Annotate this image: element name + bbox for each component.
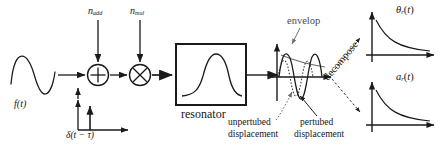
input-sine-waveform (11, 56, 55, 94)
impulse-label: δ(t − τ) (66, 131, 94, 141)
output-plot-amplitude (366, 82, 434, 132)
unperturbed-displacement-label-line1: unpertubed (228, 118, 271, 128)
amplitude-output-label: ar(t) (396, 72, 414, 83)
impulse-subplot (78, 100, 128, 130)
diagram-vector-layer (0, 0, 441, 147)
output-plot-phase (366, 12, 434, 62)
unperturbed-displacement-label-line2: displacement (228, 130, 278, 140)
perturbed-pointer (300, 96, 317, 116)
phase-output-label: θr(t) (396, 5, 414, 16)
product-operator-node (130, 65, 151, 86)
decompose-arrow-lower (332, 79, 360, 112)
sum-operator-node (88, 65, 109, 86)
multiplicative-noise-label: nmul (130, 6, 144, 17)
envelope-label: envelop (287, 16, 320, 27)
perturbed-displacement-label-line1: pertubed (300, 118, 333, 128)
additive-noise-label: nadd (88, 6, 102, 17)
unperturbed-pointer (276, 92, 292, 120)
perturbed-displacement-label-line2: displacement (294, 130, 344, 140)
resonator-block (176, 44, 246, 105)
input-signal-label: f(t) (14, 99, 26, 109)
resonator-label: resonator (181, 108, 226, 120)
diagram-canvas: f(t) nadd nmul δ(t − τ) resonator envelo… (0, 0, 441, 147)
envelope-pointer (292, 28, 300, 44)
